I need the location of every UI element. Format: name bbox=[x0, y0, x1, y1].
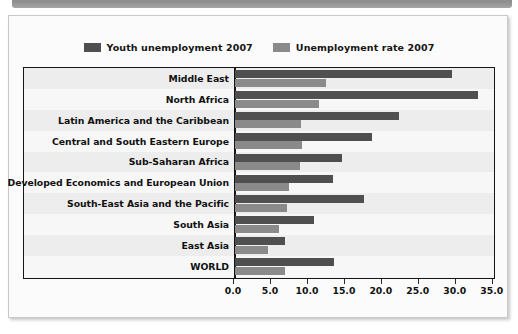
legend-swatch-youth bbox=[84, 43, 101, 52]
x-tick bbox=[307, 279, 308, 284]
bar-youth-unemployment bbox=[235, 133, 372, 141]
x-tick bbox=[418, 279, 419, 284]
bar-group bbox=[234, 172, 494, 193]
x-tick-label: 25.0 bbox=[406, 285, 429, 296]
category-label: Middle East bbox=[168, 73, 229, 84]
x-tick bbox=[233, 279, 234, 284]
bar-group bbox=[234, 235, 494, 256]
bar-unemployment-rate bbox=[235, 79, 326, 87]
category-row: WORLD bbox=[24, 256, 234, 277]
category-label: Latin America and the Caribbean bbox=[58, 115, 229, 126]
legend-entry-0: Youth unemployment 2007 bbox=[84, 42, 253, 53]
x-tick-label: 15.0 bbox=[332, 285, 355, 296]
category-label: East Asia bbox=[181, 240, 229, 251]
bar-group bbox=[234, 110, 494, 131]
category-row: North Africa bbox=[24, 89, 234, 110]
bar-group bbox=[234, 214, 494, 235]
category-row: Developed Economics and European Union bbox=[24, 172, 234, 193]
bar-group bbox=[234, 89, 494, 110]
bar-unemployment-rate bbox=[235, 267, 285, 275]
legend-label-1: Unemployment rate 2007 bbox=[296, 42, 435, 53]
x-tick-label: 10.0 bbox=[295, 285, 318, 296]
x-axis: 0.05.010.015.020.025.030.035.0 bbox=[23, 279, 495, 313]
legend-swatch-rate bbox=[273, 43, 290, 52]
category-row: Latin America and the Caribbean bbox=[24, 110, 234, 131]
top-decorative-bar bbox=[12, 0, 512, 8]
category-label: Sub-Saharan Africa bbox=[129, 156, 229, 167]
bar-group bbox=[234, 68, 494, 89]
x-tick bbox=[270, 279, 271, 284]
bar-youth-unemployment bbox=[235, 91, 478, 99]
chart-legend: Youth unemployment 2007Unemployment rate… bbox=[9, 42, 509, 53]
category-row: Middle East bbox=[24, 68, 234, 89]
x-tick-label: 35.0 bbox=[480, 285, 503, 296]
x-tick bbox=[344, 279, 345, 284]
category-row: South Asia bbox=[24, 214, 234, 235]
category-label: South Asia bbox=[173, 219, 229, 230]
legend-entry-1: Unemployment rate 2007 bbox=[273, 42, 435, 53]
x-tick-label: 0.0 bbox=[225, 285, 241, 296]
chart-card: Youth unemployment 2007Unemployment rate… bbox=[8, 15, 508, 318]
category-row: East Asia bbox=[24, 235, 234, 256]
x-tick bbox=[455, 279, 456, 284]
bar-unemployment-rate bbox=[235, 246, 268, 254]
bar-group bbox=[234, 152, 494, 173]
bar-unemployment-rate bbox=[235, 100, 319, 108]
bar-youth-unemployment bbox=[235, 70, 452, 78]
x-tick-label: 5.0 bbox=[262, 285, 278, 296]
category-row: South-East Asia and the Pacific bbox=[24, 193, 234, 214]
category-row: Central and South Eastern Europe bbox=[24, 131, 234, 152]
category-axis: Middle EastNorth AfricaLatin America and… bbox=[24, 68, 234, 278]
category-label: South-East Asia and the Pacific bbox=[67, 198, 229, 209]
bars-region bbox=[234, 68, 494, 278]
x-tick bbox=[492, 279, 493, 284]
bar-youth-unemployment bbox=[235, 154, 342, 162]
bar-group bbox=[234, 193, 494, 214]
bar-unemployment-rate bbox=[235, 183, 289, 191]
x-axis-tick-marks bbox=[233, 279, 495, 284]
category-row: Sub-Saharan Africa bbox=[24, 152, 234, 173]
bar-group bbox=[234, 131, 494, 152]
bar-group bbox=[234, 256, 494, 277]
bar-unemployment-rate bbox=[235, 120, 301, 128]
category-label: WORLD bbox=[190, 261, 229, 272]
bar-unemployment-rate bbox=[235, 225, 279, 233]
bar-youth-unemployment bbox=[235, 195, 364, 203]
bar-unemployment-rate bbox=[235, 162, 300, 170]
bar-youth-unemployment bbox=[235, 237, 285, 245]
x-axis-tick-labels: 0.05.010.015.020.025.030.035.0 bbox=[233, 285, 495, 299]
legend-label-0: Youth unemployment 2007 bbox=[107, 42, 253, 53]
bar-youth-unemployment bbox=[235, 216, 314, 224]
category-label: Developed Economics and European Union bbox=[8, 177, 230, 188]
category-label: North Africa bbox=[166, 94, 229, 105]
x-tick bbox=[381, 279, 382, 284]
plot-area: Middle EastNorth AfricaLatin America and… bbox=[23, 67, 495, 279]
category-label: Central and South Eastern Europe bbox=[52, 136, 229, 147]
bar-unemployment-rate bbox=[235, 204, 287, 212]
x-tick-label: 20.0 bbox=[369, 285, 392, 296]
bar-unemployment-rate bbox=[235, 141, 302, 149]
bar-youth-unemployment bbox=[235, 112, 399, 120]
x-tick-label: 30.0 bbox=[443, 285, 466, 296]
bar-youth-unemployment bbox=[235, 258, 334, 266]
bar-youth-unemployment bbox=[235, 175, 333, 183]
